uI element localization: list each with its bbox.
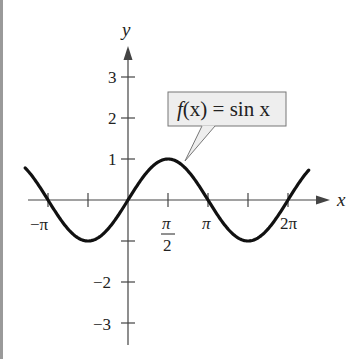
x-tick-label-pi: π (202, 214, 211, 233)
x-tick-label-pi-over-2-den: 2 (163, 236, 172, 255)
x-axis-label: x (336, 189, 346, 210)
sine-plot: f(x) = sin x y x −π π 2 π 2π 3 2 1 −2 −3 (0, 0, 354, 359)
y-tick-label-neg-3: −3 (93, 315, 111, 334)
x-tick-label-neg-pi: −π (30, 215, 49, 234)
y-axis (121, 46, 135, 345)
x-tick-label-2pi: 2π (280, 214, 298, 233)
y-axis-arrow-icon (124, 46, 133, 60)
y-axis-label: y (120, 19, 131, 40)
function-callout: f(x) = sin x (168, 92, 286, 161)
y-tick-label-3: 3 (108, 68, 117, 87)
callout-text: f(x) = sin x (177, 97, 270, 121)
y-tick-label-neg-2: −2 (93, 273, 111, 292)
chart-figure: f(x) = sin x y x −π π 2 π 2π 3 2 1 −2 −3 (0, 0, 354, 359)
x-axis-arrow-icon (316, 196, 330, 205)
y-tick-label-2: 2 (108, 109, 117, 128)
x-tick-label-pi-over-2-num: π (162, 214, 171, 233)
y-tick-label-1: 1 (108, 150, 117, 169)
